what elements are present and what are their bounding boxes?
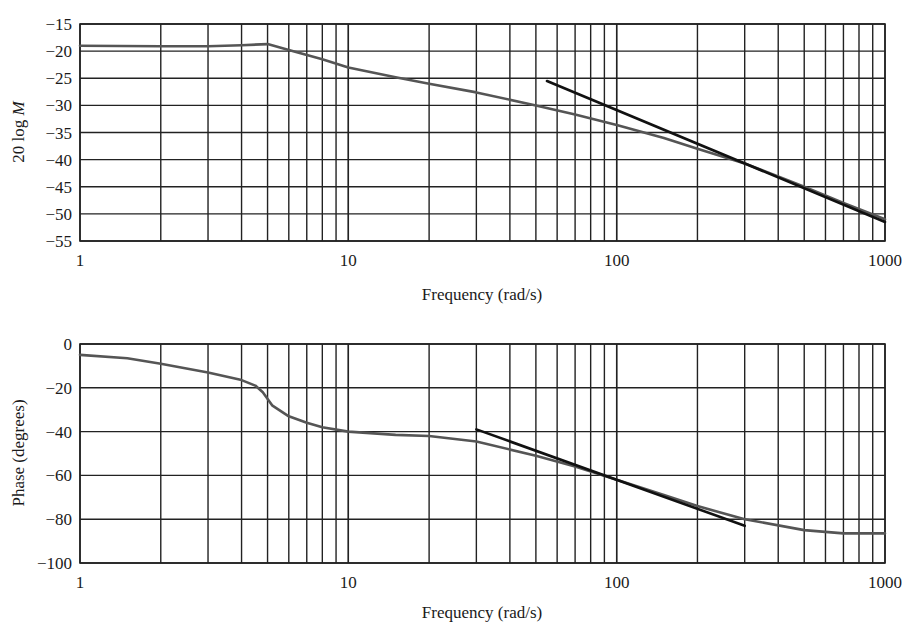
- bode-figure: −15−20−25−30−35−40−45−50−551101001000 0−…: [0, 0, 910, 640]
- phase-phase-line: [80, 355, 885, 534]
- phase-x-tick-label: 100: [604, 573, 630, 592]
- phase-y-axis-label: Phase (degrees): [9, 399, 28, 506]
- phase-x-tick-label: 10: [340, 573, 357, 592]
- magnitude-y-tick-label: −50: [45, 205, 72, 224]
- magnitude-y-tick-label: −45: [45, 178, 72, 197]
- phase-asymptote-line: [476, 429, 744, 525]
- phase-plot: 0−20−40−60−80−1001101001000: [37, 335, 902, 592]
- magnitude-y-label-prefix: 20 log: [9, 115, 28, 162]
- magnitude-y-axis-label: 20 log M: [9, 100, 28, 162]
- phase-y-tick-label: −20: [45, 379, 72, 398]
- magnitude-y-tick-label: −55: [45, 232, 72, 251]
- magnitude-x-tick-label: 100: [604, 251, 630, 270]
- magnitude-y-tick-label: −40: [45, 151, 72, 170]
- magnitude-y-tick-label: −35: [45, 124, 72, 143]
- magnitude-plot: −15−20−25−30−35−40−45−50−551101001000: [45, 15, 902, 270]
- phase-y-tick-label: −80: [45, 510, 72, 529]
- magnitude-asymptote-line: [547, 81, 885, 222]
- phase-plot-frame: [80, 344, 885, 563]
- magnitude-x-tick-label: 1000: [868, 251, 902, 270]
- phase-x-tick-label: 1000: [868, 573, 902, 592]
- phase-y-tick-label: 0: [64, 335, 73, 354]
- magnitude-magnitude-line: [80, 44, 885, 219]
- magnitude-y-tick-label: −30: [45, 96, 72, 115]
- magnitude-x-axis-label: Frequency (rad/s): [422, 285, 542, 304]
- phase-y-tick-label: −40: [45, 423, 72, 442]
- phase-y-tick-label: −60: [45, 466, 72, 485]
- magnitude-x-tick-label: 10: [340, 251, 357, 270]
- magnitude-y-label-var: M: [9, 100, 28, 116]
- phase-x-tick-label: 1: [76, 573, 85, 592]
- magnitude-y-tick-label: −25: [45, 69, 72, 88]
- magnitude-y-tick-label: −20: [45, 42, 72, 61]
- phase-y-tick-label: −100: [37, 554, 72, 573]
- magnitude-x-tick-label: 1: [76, 251, 85, 270]
- magnitude-y-tick-label: −15: [45, 15, 72, 34]
- phase-x-axis-label: Frequency (rad/s): [422, 603, 542, 622]
